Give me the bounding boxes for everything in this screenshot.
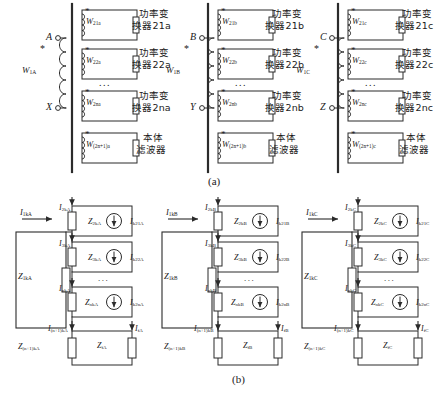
polarity-dot-a2: * — [85, 46, 90, 55]
filter-impedance-left-label-A: Z(n+1)kA — [18, 343, 40, 352]
caption-a: (a) — [208, 176, 220, 187]
branch-source-label-A1: Ik21A — [130, 218, 144, 227]
polarity-dot-b3: * — [221, 88, 226, 97]
filter-current-out-label-B: IfB — [281, 325, 289, 334]
polarity-dot-b1: * — [221, 7, 226, 16]
branch-impedance-label-C2: Z3kC — [374, 254, 387, 263]
polarity-dot-B: * — [184, 44, 189, 54]
branch-impedance-label-B3: ZnkB — [231, 299, 244, 308]
polarity-dot-a4: * — [85, 130, 90, 139]
branch-source-label-B3: Ik2nB — [276, 299, 289, 308]
terminal-X-label: X — [46, 102, 52, 112]
device-label-b3-line1: 功率变 — [272, 91, 303, 101]
secondary-winding-label-c4: W(2n+1)c — [352, 140, 376, 149]
branch-source-label-B2: Ik22B — [276, 254, 289, 263]
primary-winding-A-label: W1A — [22, 66, 36, 76]
device-label-b1-line2: 换器21b — [265, 21, 304, 31]
filter-label-b-line1: 本体 — [276, 133, 296, 143]
filter-current-out-label-C: IfC — [421, 325, 429, 334]
ellipsis-b-B: ... — [244, 273, 255, 283]
polarity-dot-c3: * — [351, 88, 356, 97]
polarity-dot-C: * — [314, 44, 319, 54]
polarity-dot-c4: * — [351, 130, 356, 139]
filter-label-c-line1: 本体 — [406, 133, 426, 143]
filter-current-in-label-A: I(n+1)kA — [48, 325, 68, 334]
filter-label-b-line2: 滤波器 — [269, 145, 300, 155]
device-label-c3-line2: 换器2nc — [395, 103, 433, 113]
filter-label-c-line2: 滤波器 — [399, 145, 430, 155]
device-label-b1-line1: 功率变 — [272, 9, 303, 19]
source-current-label-A: I1kA — [20, 208, 32, 217]
branch-source-label-B1: Ik21B — [276, 218, 289, 227]
figure-root: A X W1A * B Y W1B * C Z W1C * W21a * 功率变… — [0, 0, 438, 393]
branch-source-label-C1: Ik21C — [416, 218, 429, 227]
device-label-a1-line2: 换器21a — [132, 21, 171, 31]
device-label-c2-line1: 功率变 — [402, 48, 433, 58]
branch-impedance-label-C3: ZnkC — [371, 299, 384, 308]
branch-current-label-A2: I3kA — [59, 240, 70, 249]
secondary-winding-label-a4: W(2n+1)a — [86, 140, 110, 149]
secondary-winding-label-b4: W(2n+1)b — [222, 140, 246, 149]
polarity-dot-a1: * — [85, 7, 90, 16]
ellipsis-c: ... — [365, 77, 377, 88]
device-label-c3-line1: 功率变 — [402, 91, 433, 101]
branch-current-label-A1: I2kA — [59, 204, 70, 213]
branch-current-label-B1: I2kB — [205, 204, 216, 213]
branch-current-label-B2: I3kB — [205, 240, 216, 249]
device-label-a3-line1: 功率变 — [139, 91, 170, 101]
device-label-a3-line2: 换器2na — [132, 103, 171, 113]
terminal-Y-label: Y — [190, 102, 196, 112]
branch-current-label-C3: InkC — [345, 285, 356, 294]
filter-label-a-line2: 滤波器 — [136, 145, 167, 155]
terminal-B-label: B — [190, 32, 196, 42]
device-label-c1-line1: 功率变 — [402, 9, 433, 19]
secondary-winding-label-c1: W21c — [352, 17, 367, 26]
device-label-b2-line2: 换器22b — [265, 60, 304, 70]
secondary-winding-label-a1: W21a — [86, 17, 101, 26]
branch-source-label-C2: Ik22C — [416, 254, 429, 263]
polarity-dot-b4: * — [221, 130, 226, 139]
filter-current-in-label-C: I(n+1)kC — [334, 325, 354, 334]
terminal-A-label: A — [46, 32, 52, 42]
source-current-label-B: I1kB — [166, 208, 178, 217]
branch-current-label-A3: InkA — [59, 285, 70, 294]
device-label-b3-line2: 换器2nb — [265, 103, 304, 113]
filter-impedance-left-label-B: Z(n+1)kB — [164, 343, 185, 352]
secondary-winding-label-a3: W2na — [86, 98, 101, 107]
caption-b: (b) — [232, 374, 245, 385]
filter-impedance-mid-label-C: ZfC — [383, 342, 392, 351]
polarity-dot-a3: * — [85, 88, 90, 97]
filter-impedance-left-label-C: Z(n+1)kC — [304, 343, 325, 352]
polarity-dot-c2: * — [351, 46, 356, 55]
device-label-a2-line2: 换器22a — [132, 60, 171, 70]
branch-current-label-C1: I2kC — [345, 204, 356, 213]
secondary-winding-label-b2: W22b — [222, 56, 237, 65]
source-current-label-C: I1kC — [306, 208, 318, 217]
branch-current-label-B3: InkB — [205, 285, 216, 294]
ellipsis-b: ... — [235, 77, 247, 88]
branch-impedance-label-A2: Z3kA — [88, 254, 101, 263]
branch-impedance-label-A3: ZnkA — [85, 299, 98, 308]
ellipsis-b-A: ... — [98, 273, 109, 283]
filter-current-out-label-A: IfA — [135, 325, 143, 334]
filter-impedance-mid-label-B: ZfB — [243, 342, 252, 351]
source-impedance-label-C: Z1kC — [304, 272, 318, 281]
secondary-winding-label-a2: W22a — [86, 56, 101, 65]
filter-label-a-line1: 本体 — [143, 133, 163, 143]
secondary-winding-label-c2: W22c — [352, 56, 367, 65]
device-label-a2-line1: 功率变 — [139, 48, 170, 58]
device-label-b2-line1: 功率变 — [272, 48, 303, 58]
device-label-a1-line1: 功率变 — [139, 9, 170, 19]
device-label-c2-line2: 换器22c — [395, 60, 433, 70]
branch-impedance-label-B1: Z2kB — [234, 218, 247, 227]
polarity-dot-A: * — [40, 44, 45, 54]
ellipsis-b-C: ... — [384, 273, 395, 283]
branch-current-label-C2: I3kC — [345, 240, 356, 249]
terminal-Z-label: Z — [320, 102, 326, 112]
filter-impedance-mid-label-A: ZfA — [97, 342, 107, 351]
branch-impedance-label-B2: Z3kB — [234, 254, 247, 263]
circuit-diagram-artwork — [0, 0, 438, 393]
device-label-c1-line2: 换器21c — [395, 21, 433, 31]
terminal-C-label: C — [320, 32, 327, 42]
secondary-winding-label-b3: W2nb — [222, 98, 237, 107]
